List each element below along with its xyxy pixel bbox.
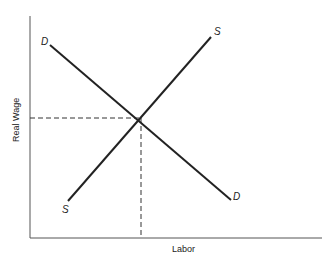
labor-market-diagram: D D S S Labor Real Wage <box>0 0 331 262</box>
demand-label-top: D <box>41 36 48 47</box>
supply-label-top: S <box>214 26 221 37</box>
y-axis-label: Real Wage <box>11 98 21 142</box>
supply-label-bottom: S <box>62 204 69 215</box>
supply-curve <box>68 37 211 201</box>
x-axis-label: Labor <box>172 244 195 254</box>
demand-label-bottom: D <box>233 191 240 202</box>
